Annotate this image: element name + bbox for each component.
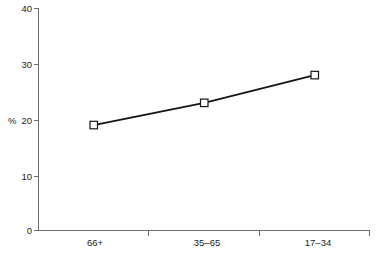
x-category-label-0: 66+ xyxy=(87,237,104,248)
data-point-marker xyxy=(311,71,319,79)
x-category-label-2: 17–34 xyxy=(305,237,331,248)
line-chart-figure: 40 30 20 10 0 % 66+ 35–65 17–34 xyxy=(0,0,377,258)
y-axis-title: % xyxy=(8,115,17,126)
y-tick-label-10: 10 xyxy=(21,171,32,182)
data-point-marker xyxy=(201,99,209,107)
data-point-marker xyxy=(90,121,98,129)
x-category-label-1: 35–65 xyxy=(194,237,220,248)
data-point-markers xyxy=(90,71,319,128)
y-tick-label-40: 40 xyxy=(21,3,32,14)
y-tick-label-0: 0 xyxy=(27,225,32,236)
y-tick-label-30: 30 xyxy=(21,59,32,70)
chart-canvas: 40 30 20 10 0 % 66+ 35–65 17–34 xyxy=(0,0,377,258)
y-tick-label-20: 20 xyxy=(21,115,32,126)
